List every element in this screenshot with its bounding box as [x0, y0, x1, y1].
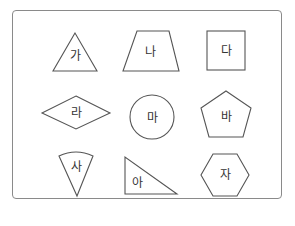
shape-pentagon-ba: 바 — [201, 91, 251, 137]
shapes-canvas: 가 나 다 라 마 바 사 아 자 — [0, 0, 295, 226]
shape-trapezoid-na: 나 — [123, 31, 179, 71]
shape-hexagon-ja: 자 — [201, 154, 249, 196]
label-da: 다 — [221, 44, 232, 58]
shape-right-triangle-a: 아 — [125, 157, 177, 194]
shape-circle-ma: 마 — [130, 95, 174, 139]
shape-triangle-ga: 가 — [53, 33, 97, 71]
label-ga: 가 — [70, 49, 81, 63]
label-na: 나 — [145, 45, 156, 59]
label-sa: 사 — [71, 160, 82, 174]
label-ma: 마 — [147, 111, 158, 125]
shape-square-da: 다 — [207, 31, 245, 70]
label-ra: 라 — [71, 106, 82, 120]
shape-rhombus-ra: 라 — [42, 96, 110, 129]
label-ja: 자 — [220, 168, 231, 182]
label-ba: 바 — [221, 110, 232, 124]
label-a: 아 — [132, 176, 143, 190]
shape-sector-sa: 사 — [59, 152, 93, 196]
